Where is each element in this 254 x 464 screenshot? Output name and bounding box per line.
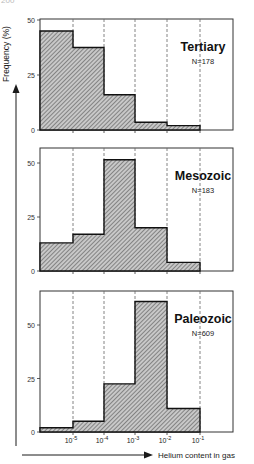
y-tick-label: 0	[31, 268, 35, 275]
x-tick-label: 10-3	[127, 435, 140, 444]
x-axis-label: Helium content in gas	[158, 451, 235, 460]
y-axis-arrowhead-icon	[13, 84, 20, 93]
panel-tertiary: 02550TertiaryN=178	[27, 17, 233, 134]
panel-title: Tertiary	[181, 40, 226, 54]
x-axis-arrowhead-icon	[144, 452, 153, 459]
panel-title: Paleozoic	[174, 312, 232, 326]
x-tick-label: 10-1	[192, 435, 205, 444]
y-axis-label: Frequency (%)	[1, 26, 11, 82]
y-tick-label: 50	[27, 322, 35, 329]
panel-paleozoic: 02550PaleozoicN=609	[27, 291, 233, 436]
y-tick-label: 25	[27, 376, 35, 383]
x-tick-label: 10-4	[96, 435, 109, 444]
y-tick-label: 25	[27, 214, 35, 221]
panel-sample-size: N=178	[192, 57, 214, 66]
panel-sample-size: N=183	[192, 186, 214, 195]
panel-mesozoic: 02550MesozoicN=183	[27, 148, 233, 275]
panel-title: Mesozoic	[175, 169, 231, 183]
x-tick-label: 10-2	[159, 435, 172, 444]
y-tick-label: 0	[31, 127, 35, 134]
histogram-figure: 02550TertiaryN=17802550MesozoicN=1830255…	[0, 0, 254, 464]
y-tick-label: 50	[27, 160, 35, 167]
y-tick-label: 0	[31, 429, 35, 436]
x-tick-labels: 10-510-410-310-210-1	[65, 435, 205, 444]
histogram-bars	[40, 31, 200, 130]
panel-sample-size: N=609	[192, 329, 214, 338]
y-tick-label: 50	[27, 17, 35, 24]
x-tick-label: 10-5	[65, 435, 78, 444]
y-tick-label: 25	[27, 72, 35, 79]
